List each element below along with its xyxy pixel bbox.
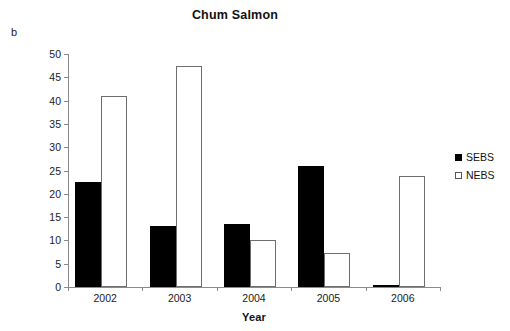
- y-tick-label: 40: [49, 95, 61, 106]
- chart-legend: SEBSNEBS: [455, 150, 495, 186]
- bar-nebs-2005[interactable]: [324, 253, 350, 287]
- chart-title: Chum Salmon: [0, 8, 470, 22]
- y-tick-mark: [64, 101, 68, 102]
- y-tick-mark: [64, 77, 68, 78]
- bar-group: [75, 54, 127, 287]
- x-tick-mark: [366, 287, 367, 291]
- bar-group: [373, 54, 425, 287]
- x-tick-label-2005: 2005: [317, 293, 340, 304]
- y-tick-mark: [64, 217, 68, 218]
- x-tick-mark: [440, 287, 441, 291]
- y-tick-label: 15: [49, 212, 61, 223]
- legend-label: SEBS: [466, 152, 494, 163]
- legend-swatch-icon: [455, 172, 462, 179]
- bar-nebs-2003[interactable]: [176, 66, 202, 287]
- legend-label: NEBS: [466, 170, 495, 181]
- x-tick-label-2004: 2004: [242, 293, 265, 304]
- y-tick-label: 10: [49, 235, 61, 246]
- bar-nebs-2004[interactable]: [250, 240, 276, 287]
- bar-nebs-2006[interactable]: [399, 176, 425, 287]
- plot-area: 05101520253035404550: [68, 54, 440, 287]
- bar-group: [150, 54, 202, 287]
- x-tick-mark: [217, 287, 218, 291]
- y-tick-mark: [64, 171, 68, 172]
- x-tick-label-2003: 2003: [168, 293, 191, 304]
- bar-group: [224, 54, 276, 287]
- x-tick-mark: [142, 287, 143, 291]
- bar-sebs-2006[interactable]: [373, 285, 399, 287]
- y-tick-mark: [64, 124, 68, 125]
- legend-item-nebs[interactable]: NEBS: [455, 168, 495, 183]
- y-tick-label: 45: [49, 72, 61, 83]
- bar-sebs-2003[interactable]: [150, 226, 176, 287]
- bar-sebs-2002[interactable]: [75, 182, 101, 287]
- y-tick-label: 0: [55, 282, 61, 293]
- y-tick-mark: [64, 54, 68, 55]
- y-tick-label: 50: [49, 49, 61, 60]
- x-tick-label-2006: 2006: [391, 293, 414, 304]
- y-tick-label: 5: [55, 258, 61, 269]
- y-tick-mark: [64, 240, 68, 241]
- bar-sebs-2005[interactable]: [298, 166, 324, 287]
- bar-nebs-2002[interactable]: [101, 96, 127, 287]
- x-tick-mark: [68, 287, 69, 291]
- x-axis-title: Year: [68, 311, 440, 323]
- y-tick-mark: [64, 194, 68, 195]
- y-tick-label: 20: [49, 189, 61, 200]
- y-tick-label: 30: [49, 142, 61, 153]
- y-tick-label: 25: [49, 165, 61, 176]
- x-axis-line: [68, 287, 440, 288]
- bar-group: [298, 54, 350, 287]
- y-tick-mark: [64, 147, 68, 148]
- legend-item-sebs[interactable]: SEBS: [455, 150, 495, 165]
- legend-swatch-icon: [455, 154, 462, 161]
- x-tick-label-2002: 2002: [94, 293, 117, 304]
- panel-letter: b: [11, 27, 17, 38]
- bar-sebs-2004[interactable]: [224, 224, 250, 287]
- y-tick-mark: [64, 264, 68, 265]
- x-tick-mark: [291, 287, 292, 291]
- y-tick-label: 35: [49, 119, 61, 130]
